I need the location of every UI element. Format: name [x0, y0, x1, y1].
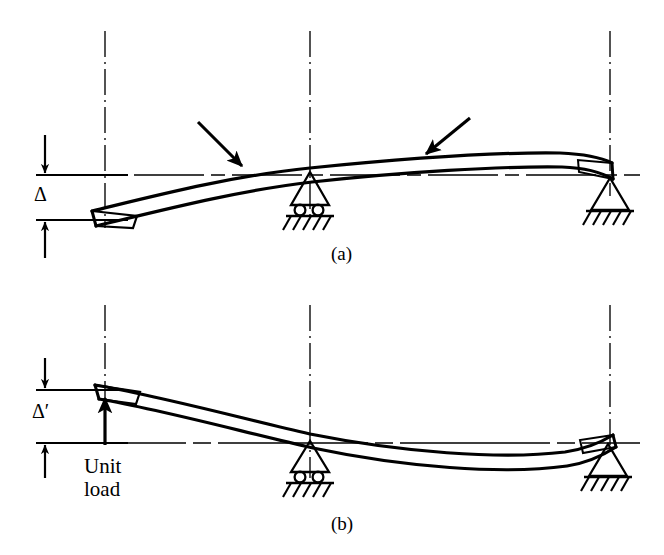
- roller-support-a-roller-left: [295, 205, 306, 216]
- load-arrow-a-right: [426, 118, 470, 154]
- delta-prime-label: Δ′: [32, 400, 49, 422]
- panel-b-label: (b): [331, 513, 353, 534]
- unit-load-label-line2: load: [84, 478, 120, 502]
- diagram-b: [36, 358, 640, 497]
- pin-support-a-hatching: [583, 211, 631, 225]
- unit-load-label-line1: Unit: [84, 455, 121, 479]
- pin-support-b-hatching: [581, 477, 629, 491]
- beam-a-bottom-edge: [96, 167, 613, 226]
- beam-b-left-end-chamfer: [95, 385, 140, 404]
- beam-b-right-end-face: [613, 435, 616, 447]
- roller-support-b-roller-left: [295, 472, 306, 483]
- roller-support-b-hatching: [283, 483, 331, 497]
- beam-a-left-end-face: [92, 211, 96, 226]
- beam-a-right-end-face: [612, 163, 613, 179]
- roller-support-a-roller-right: [313, 205, 324, 216]
- delta-label: Δ: [34, 183, 47, 205]
- load-arrow-a-left: [198, 122, 242, 166]
- beam-a-top-edge: [92, 153, 612, 211]
- vertical-centerlines: [105, 31, 610, 478]
- beam-b-top-edge: [95, 385, 613, 455]
- beam-b-bottom-edge: [99, 399, 616, 470]
- figure-container: Δ (a) Δ′ Unit load (b): [0, 0, 664, 555]
- pin-support-a: [583, 178, 634, 225]
- beam-a: [92, 153, 613, 228]
- diagram-a: [36, 118, 640, 258]
- panel-a-label: (a): [331, 243, 352, 264]
- roller-support-a-hatching: [283, 216, 331, 230]
- beam-b: [95, 385, 616, 470]
- roller-support-b-roller-right: [313, 472, 324, 483]
